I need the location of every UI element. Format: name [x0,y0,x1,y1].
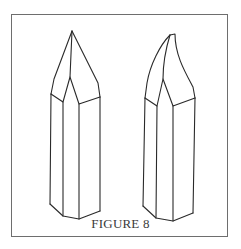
crystal-illustration [0,0,241,249]
left-crystal [50,31,100,219]
figure-caption: FIGURE 8 [0,216,241,232]
right-crystal [143,34,195,221]
